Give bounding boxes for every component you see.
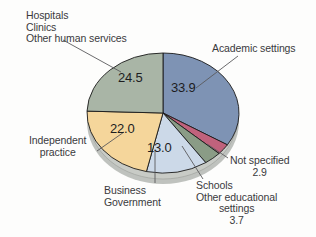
pie-slices xyxy=(87,53,239,173)
callout-business-line-2: Government xyxy=(104,197,161,209)
callout-schools-line-3: settings xyxy=(196,203,277,215)
callout-schools-line-1: Schools xyxy=(196,180,277,192)
callout-independent-practice: Independent practice xyxy=(29,135,86,158)
callout-business-line-1: Business xyxy=(104,185,161,197)
callout-not-specified-label: Not specified xyxy=(230,155,289,167)
callout-schools-other-educational-settings: Schools Other educational settings 3.7 xyxy=(196,180,277,226)
callout-not-specified-value: 2.9 xyxy=(230,167,289,179)
callout-schools-value: 3.7 xyxy=(196,215,277,227)
callout-not-specified: Not specified 2.9 xyxy=(230,155,289,178)
leader-hospitals xyxy=(63,40,121,72)
slice-value-academic: 33.9 xyxy=(171,80,196,95)
slice-value-hospitals: 24.5 xyxy=(118,70,143,85)
callout-academic-settings: Academic settings xyxy=(212,43,296,55)
callout-independent-line-2: practice xyxy=(29,147,86,159)
slice-value-independent: 22.0 xyxy=(110,121,135,136)
callout-independent-line-1: Independent xyxy=(29,135,86,147)
callout-hospitals-clinics-other-human-services: Hospitals Clinics Other human services xyxy=(26,10,127,45)
callout-business-government: Business Government xyxy=(104,185,161,208)
callout-hospitals-line-3: Other human services xyxy=(26,33,127,45)
pie-chart: 33.9 24.5 22.0 13.0 Hospitals Clinics Ot… xyxy=(0,0,316,237)
slice-value-business: 13.0 xyxy=(147,140,172,155)
callout-hospitals-line-1: Hospitals xyxy=(26,10,127,22)
